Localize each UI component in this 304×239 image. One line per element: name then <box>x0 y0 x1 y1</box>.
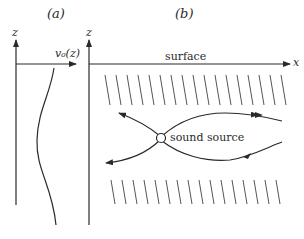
upper-hatching <box>105 75 286 105</box>
panel-a-label: (a) <box>47 6 65 21</box>
sound-source-label: sound source <box>170 131 244 144</box>
panel-b-x-axis-label: x <box>293 56 299 69</box>
panel-b-z-axis-label: z <box>86 26 92 39</box>
velocity-profile-label: v₀(z) <box>55 47 80 60</box>
panel-b-label: (b) <box>175 6 193 21</box>
ray-upper-left <box>119 113 160 136</box>
panel-a-z-axis-label: z <box>12 26 18 39</box>
panel-a-graphics <box>16 40 76 225</box>
diagram-canvas <box>0 0 304 239</box>
velocity-profile-curve <box>37 68 56 225</box>
surface-label: surface <box>165 50 206 63</box>
lower-hatching <box>111 180 280 204</box>
sound-source-marker <box>157 134 166 143</box>
ray-lower-left <box>106 140 160 163</box>
